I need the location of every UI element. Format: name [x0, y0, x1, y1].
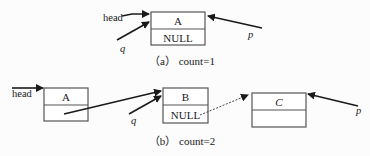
- q-arrow: [117, 22, 149, 40]
- head-pointer-label: head: [12, 88, 33, 99]
- node-b: B NULL: [163, 88, 208, 123]
- node-a-top: A NULL: [151, 12, 205, 45]
- node-c: C: [252, 93, 306, 127]
- q-pointer-label: q: [120, 43, 125, 54]
- linked-list-diagram: A NULL head q p （a） count=1 A B NULL: [0, 0, 370, 156]
- node-next-label: NULL: [171, 109, 201, 121]
- p-arrow: [208, 16, 262, 28]
- head-arrow: [122, 14, 149, 16]
- node-next-label: NULL: [163, 32, 193, 44]
- node-data-label: B: [182, 91, 189, 103]
- head-pointer-label: head: [103, 12, 124, 23]
- q-arrow: [129, 96, 161, 114]
- p-arrow: [308, 94, 358, 106]
- node-a-bottom: A: [44, 88, 88, 121]
- q-pointer-label: q: [131, 115, 136, 126]
- part-a: A NULL head q p （a） count=1: [103, 12, 262, 67]
- part-b: A B NULL C head q p （b） count=2: [12, 88, 361, 147]
- caption-a: （a） count=1: [149, 55, 215, 67]
- p-pointer-label: p: [355, 105, 361, 116]
- caption-b: （b） count=2: [149, 135, 215, 147]
- p-pointer-label: p: [247, 29, 253, 40]
- node-data-label: A: [62, 91, 70, 103]
- node-data-label: A: [174, 15, 182, 27]
- node-data-label: C: [275, 96, 283, 108]
